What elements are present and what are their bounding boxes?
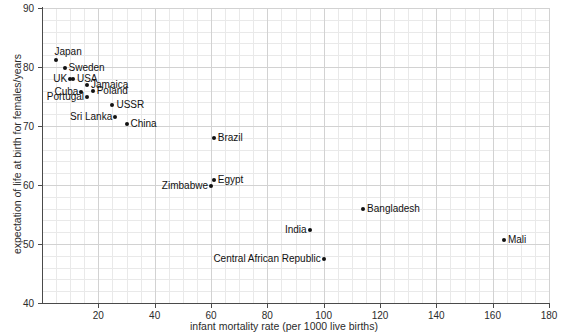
data-point — [91, 89, 95, 93]
data-point-label: Brazil — [218, 133, 243, 143]
y-tick — [38, 126, 42, 127]
gridline-vertical — [436, 8, 437, 303]
y-tick-label: 40 — [0, 298, 34, 309]
gridline-horizontal — [42, 67, 549, 68]
data-point-label: Egypt — [218, 175, 244, 185]
x-tick — [211, 304, 212, 308]
y-tick — [38, 244, 42, 245]
y-tick — [38, 185, 42, 186]
data-point — [502, 238, 506, 242]
data-point — [63, 66, 67, 70]
data-point-label: Zimbabwe — [162, 181, 208, 191]
data-point-label: USSR — [116, 100, 144, 110]
data-point-label: Japan — [54, 47, 81, 57]
data-point — [308, 228, 312, 232]
data-point — [71, 77, 75, 81]
x-axis-title: infant mortality rate (per 1000 live bir… — [0, 320, 568, 332]
data-point-label: Central African Republic — [213, 254, 320, 264]
data-point — [322, 257, 326, 261]
data-point — [125, 122, 129, 126]
gridline-vertical — [155, 8, 156, 303]
data-point — [85, 83, 89, 87]
data-point-label: Bangladesh — [367, 204, 420, 214]
data-point — [361, 207, 365, 211]
y-tick — [38, 8, 42, 9]
data-point-label: India — [285, 225, 307, 235]
data-point-label: Poland — [97, 86, 128, 96]
x-tick — [98, 304, 99, 308]
y-tick — [38, 67, 42, 68]
x-tick — [380, 304, 381, 308]
gridline-horizontal — [42, 185, 549, 186]
data-point-label: Sweden — [69, 63, 105, 73]
x-tick — [324, 304, 325, 308]
chart-root: JapanSwedenUKUSAJamaicaCubaPolandPortuga… — [0, 0, 568, 336]
gridline-horizontal — [42, 244, 549, 245]
data-point — [85, 95, 89, 99]
x-axis-line — [42, 303, 550, 304]
x-tick — [549, 304, 550, 308]
gridline-horizontal — [42, 126, 549, 127]
gridline-vertical — [211, 8, 212, 303]
plot-area: JapanSwedenUKUSAJamaicaCubaPolandPortuga… — [42, 8, 549, 303]
x-tick — [267, 304, 268, 308]
gridline-vertical — [493, 8, 494, 303]
data-point-label: Portugal — [47, 92, 84, 102]
data-point-label: UK — [53, 74, 67, 84]
gridline-vertical — [549, 8, 550, 303]
gridline-vertical — [380, 8, 381, 303]
y-axis-title: expectation of life at birth for females… — [11, 29, 23, 279]
gridline-vertical — [98, 8, 99, 303]
gridline-horizontal — [42, 8, 549, 9]
y-tick-label: 90 — [0, 3, 34, 14]
data-point — [212, 178, 216, 182]
x-tick — [436, 304, 437, 308]
data-point-label: Sri Lanka — [70, 112, 112, 122]
data-point — [209, 184, 213, 188]
data-point-label: Mali — [508, 235, 526, 245]
data-point — [212, 136, 216, 140]
data-point — [54, 58, 58, 62]
data-point — [113, 115, 117, 119]
data-point — [110, 103, 114, 107]
x-tick — [493, 304, 494, 308]
x-tick — [155, 304, 156, 308]
data-point-label: China — [131, 119, 157, 129]
y-tick — [38, 303, 42, 304]
y-axis-line — [42, 7, 43, 304]
